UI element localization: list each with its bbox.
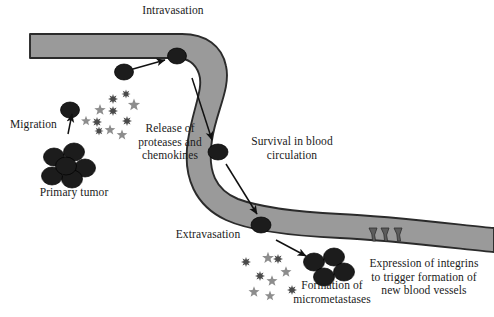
label-release: Release of proteases and chemokines — [128, 122, 212, 163]
metastatic-cascade-diagram: IntravasationMigrationRelease of proteas… — [0, 0, 494, 317]
protease-burst-icon — [273, 254, 283, 264]
protease-burst-icon — [108, 94, 118, 104]
arrow-to-micromets — [276, 240, 306, 256]
label-micrometastases: Formation of micrometastases — [290, 279, 374, 306]
cell-in-lumen-top — [168, 48, 187, 64]
chemokine-star-icon — [266, 275, 277, 285]
protease-burst-icon — [94, 126, 103, 135]
cell-extravasating — [251, 217, 271, 233]
protease-burst-icon — [121, 89, 130, 98]
chemokine-star-icon — [262, 252, 274, 263]
protease-burst-icon — [108, 106, 118, 116]
chemokine-star-icon — [280, 266, 291, 276]
cell-intravasating — [115, 64, 134, 80]
primary-tumor-cell — [56, 157, 77, 175]
cell-migrating — [61, 102, 80, 118]
chemokine-star-icon — [128, 99, 140, 111]
chemokine-star-icon — [81, 116, 91, 125]
integrin-sprouts — [369, 228, 402, 241]
label-survival: Survival in blood circulation — [242, 135, 342, 162]
label-integrins: Expression of integrins to trigger forma… — [364, 257, 484, 298]
chemokine-star-icon — [265, 291, 275, 301]
chemokine-star-icon — [117, 129, 128, 139]
chemokine-star-icon — [105, 124, 116, 134]
label-migration: Migration — [10, 118, 68, 132]
arrow-intravasation — [133, 60, 165, 69]
label-primary-tumor: Primary tumor — [32, 186, 116, 200]
protease-burst-icon — [255, 271, 265, 281]
chemokine-star-icon — [248, 286, 259, 296]
protease-burst-icon — [241, 257, 251, 267]
label-extravasation: Extravasation — [168, 228, 248, 242]
chemokine-star-icon — [94, 104, 105, 115]
label-intravasation: Intravasation — [118, 4, 228, 18]
protease-burst-icon — [92, 117, 102, 127]
